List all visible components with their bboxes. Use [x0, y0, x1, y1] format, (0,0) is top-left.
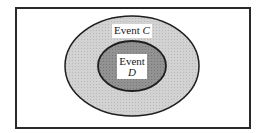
- event-d-label-var: D: [117, 67, 147, 78]
- event-d-label: Event D: [117, 54, 147, 79]
- event-c-label-word: Event: [114, 24, 140, 36]
- event-c-label: Event C: [112, 24, 152, 38]
- event-c-label-var: C: [143, 24, 150, 36]
